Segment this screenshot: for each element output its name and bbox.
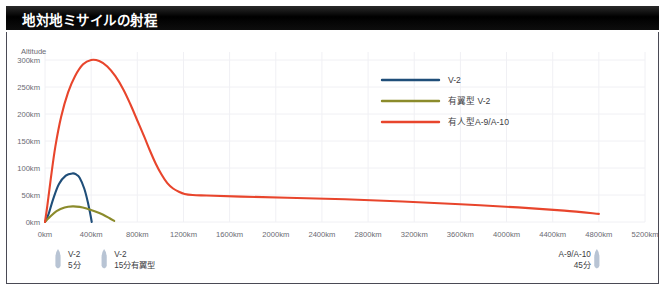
x-tick-label: 800km — [126, 230, 149, 239]
annotation-item: V-25分 — [55, 249, 80, 270]
y-axis-tick-labels: 0km50km100km150km200km250km300km — [17, 56, 40, 227]
y-tick-label: 50km — [21, 191, 40, 200]
series-line — [45, 206, 114, 222]
title-bar: 地対地ミサイルの射程 — [6, 6, 659, 30]
y-tick-label: 250km — [17, 83, 40, 92]
annotation-item: A-9/A-1045分 — [559, 249, 600, 270]
y-axis-title: Altitude — [21, 47, 46, 56]
x-tick-label: 3200km — [401, 230, 428, 239]
annotation-line1: A-9/A-10 — [559, 250, 592, 259]
annotation-line1: V-2 — [114, 250, 127, 259]
x-tick-label: 3600km — [447, 230, 474, 239]
x-tick-label: 4400km — [539, 230, 566, 239]
annotation-line1: V-2 — [68, 250, 81, 259]
x-tick-label: 2400km — [308, 230, 335, 239]
x-tick-label: 1200km — [170, 230, 197, 239]
legend-label: 有人型A-9/A-10 — [448, 116, 509, 127]
x-axis-tick-labels: 0km400km800km1200km1600km2000km2400km280… — [38, 230, 658, 239]
page-title: 地対地ミサイルの射程 — [22, 9, 157, 29]
annotation-item: V-215分有翼型 — [102, 249, 156, 270]
bottom-annotations: V-25分V-215分有翼型A-9/A-1045分 — [55, 249, 599, 270]
chart-legend: V-2有翼型 V-2有人型A-9/A-10 — [382, 75, 509, 127]
x-tick-label: 0km — [38, 230, 52, 239]
y-tick-label: 150km — [17, 137, 40, 146]
x-tick-label: 5200km — [631, 230, 658, 239]
annotation-line2: 45分 — [574, 261, 591, 270]
annotation-line2: 5分 — [68, 261, 81, 270]
legend-label: V-2 — [448, 75, 461, 85]
missile-range-chart: 0km50km100km150km200km250km300km 0km400k… — [7, 32, 658, 282]
y-tick-label: 200km — [17, 110, 40, 119]
x-tick-label: 1600km — [216, 230, 243, 239]
x-tick-label: 4000km — [493, 230, 520, 239]
gridlines — [45, 52, 645, 222]
annotation-line2: 15分有翼型 — [114, 260, 155, 270]
x-tick-label: 2000km — [262, 230, 289, 239]
x-tick-label: 4800km — [585, 230, 612, 239]
chart-plate: 0km50km100km150km200km250km300km 0km400k… — [6, 32, 659, 284]
y-tick-label: 0km — [26, 218, 40, 227]
x-tick-label: 2800km — [355, 230, 382, 239]
missile-icon — [594, 249, 599, 269]
x-tick-label: 400km — [80, 230, 103, 239]
figure-root: 地対地ミサイルの射程 0km50km100km150km200km250km30… — [0, 0, 665, 298]
missile-icon — [55, 249, 60, 269]
y-tick-label: 100km — [17, 164, 40, 173]
legend-label: 有翼型 V-2 — [448, 95, 491, 106]
y-tick-label: 300km — [17, 56, 40, 65]
missile-icon — [102, 249, 107, 269]
